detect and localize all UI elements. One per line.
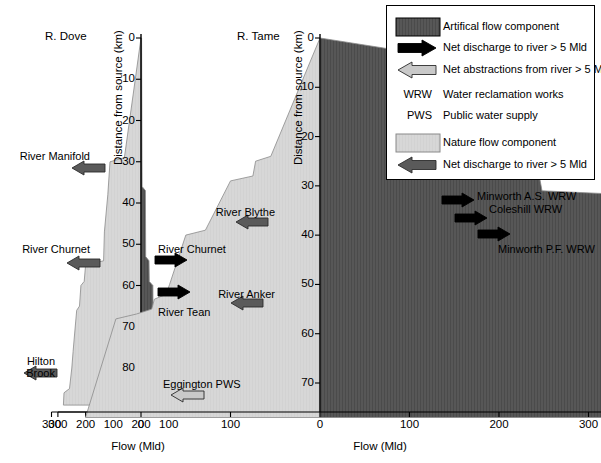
y-tick-label: 0 — [115, 31, 135, 43]
y-axis-title-tame: Distance from source (km) — [292, 30, 304, 165]
y-axis-title-dove: Distance from source (km) — [112, 30, 124, 165]
y-tick-label: 50 — [115, 237, 135, 249]
x-tick-label: 300 — [36, 418, 68, 430]
y-tick-label: 10 — [115, 72, 135, 84]
chart-title-dove: R. Dove — [45, 30, 87, 42]
x-tick-label: 0 — [304, 418, 336, 430]
x-tick-label: 200 — [483, 418, 515, 430]
annotation-river-tean: River Tean — [158, 306, 210, 318]
legend-row-label: Public water supply — [443, 109, 538, 121]
x-axis-title-dove: Flow (Mld) — [78, 440, 198, 452]
legend-row-label: Water reclamation works — [443, 88, 564, 100]
y-tick-label: 70 — [294, 376, 314, 388]
y-tick-label: 60 — [115, 279, 135, 291]
annotation-coleshill-wrw: Coleshill WRW — [489, 203, 562, 215]
annotation-river-churnet-right: River Churnet — [158, 243, 226, 255]
annotation-river-manifold: River Manifold — [0, 150, 90, 162]
annotation-eggington-pws: Eggington PWS — [163, 378, 241, 390]
annotation-river-churnet-left: River Churnet — [0, 243, 90, 255]
x-tick-label: 100 — [153, 418, 185, 430]
y-tick-label: 80 — [115, 361, 135, 373]
y-tick-label: 30 — [115, 155, 135, 167]
y-tick-label: 20 — [294, 130, 314, 142]
y-tick-label: 0 — [294, 31, 314, 43]
y-tick-label: 50 — [294, 277, 314, 289]
x-tick-label: 100 — [394, 418, 426, 430]
chart-title-tame: R. Tame — [237, 30, 280, 42]
annotation-minworth-as-wrw: Minworth A.S. WRW — [477, 190, 576, 202]
y-tick-label: 70 — [115, 320, 135, 332]
x-tick-label: 300 — [573, 418, 601, 430]
x-axis-title-tame: Flow (Mld) — [320, 440, 440, 452]
annotation-minworth-pf-wrw: Minworth P.F. WRW — [498, 243, 595, 255]
annotation-hilton-brook: Hilton Brook — [0, 355, 55, 379]
annotation-hilton-brook-line2: Brook — [26, 367, 55, 379]
figure-canvas: R. Dove Distance from source (km) Flow (… — [0, 0, 601, 463]
y-tick-label: 10 — [294, 80, 314, 92]
x-tick-label: 200 — [125, 418, 157, 430]
y-tick-label: 40 — [115, 196, 135, 208]
y-tick-label: 30 — [294, 179, 314, 191]
y-tick-label: 60 — [294, 327, 314, 339]
annotation-hilton-brook-line1: Hilton — [27, 355, 55, 367]
legend-row-label: Artifical flow component — [443, 20, 559, 32]
y-tick-label: 20 — [115, 114, 135, 126]
legend-row-label: Nature flow component — [443, 136, 556, 148]
y-tick-label: 40 — [294, 228, 314, 240]
legend-key-abbrev: WRW — [398, 88, 432, 100]
legend-key-abbrev: PWS — [398, 109, 432, 121]
annotation-river-anker: River Anker — [195, 288, 275, 300]
legend-row-label: Net discharge to river > 5 Mld — [443, 158, 587, 170]
legend-row-label: Net discharge to river > 5 Mld — [443, 41, 587, 53]
legend-row-label: Net abstractions from river > 5 Mld — [443, 63, 601, 75]
x-tick-label: 100 — [215, 418, 247, 430]
annotation-river-blythe: River Blythe — [195, 206, 275, 218]
